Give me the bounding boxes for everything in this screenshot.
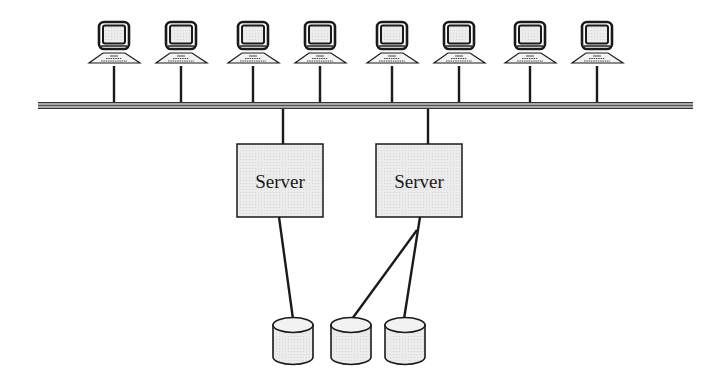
computer-terminal <box>367 22 418 102</box>
network-bus <box>38 102 693 109</box>
computer-terminal <box>572 22 623 102</box>
storage-link <box>404 217 420 319</box>
storage-link <box>279 217 293 319</box>
computer-terminal <box>156 22 207 102</box>
server-1: Server <box>237 144 323 217</box>
disk-icon <box>385 318 425 365</box>
computer-terminal <box>295 22 346 102</box>
disk-icon <box>273 318 313 365</box>
computer-terminal <box>228 22 279 102</box>
computer-terminal <box>434 22 485 102</box>
keyboard-icon <box>228 53 279 63</box>
server-bus-connectors <box>283 109 428 144</box>
disks-group <box>273 318 425 365</box>
keyboard-icon <box>156 53 207 63</box>
keyboard-icon <box>572 53 623 63</box>
storage-links <box>279 217 420 319</box>
keyboard-icon <box>295 53 346 63</box>
keyboard-icon <box>505 53 556 63</box>
computer-terminal <box>89 22 140 102</box>
network-diagram: ServerServer <box>0 0 724 380</box>
servers-group: ServerServer <box>237 144 462 217</box>
server-2: Server <box>376 144 462 217</box>
server-label: Server <box>255 171 305 192</box>
computer-terminal <box>505 22 556 102</box>
keyboard-icon <box>89 53 140 63</box>
keyboard-icon <box>367 53 418 63</box>
keyboard-icon <box>434 53 485 63</box>
disk-icon <box>331 318 371 365</box>
server-label: Server <box>394 171 444 192</box>
computers-group <box>89 22 623 102</box>
